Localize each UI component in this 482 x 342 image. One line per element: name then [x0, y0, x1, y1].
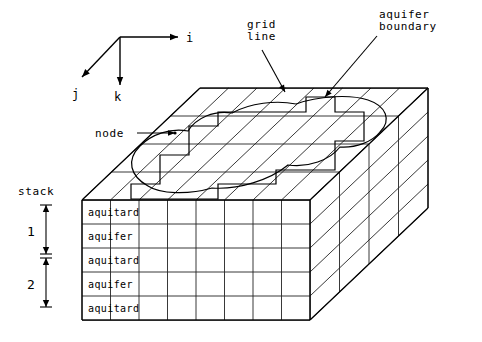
annotation-label-grid-line: gridline — [247, 18, 276, 43]
axis-label-i: i — [186, 31, 193, 45]
layer-label-aquitard-2: aquitard — [88, 255, 139, 266]
annotation-label-line: node — [95, 127, 124, 140]
layer-label-aquifer-1: aquifer — [88, 231, 133, 242]
stack-title-label: stack — [18, 185, 54, 198]
axis-label-j: j — [72, 87, 79, 101]
annotation-label-aquifer-boundary: aquiferboundary — [379, 8, 437, 33]
annotation-label-line: line — [247, 30, 276, 43]
aquifer-grid-diagram: aquitardaquiferaquitardaquiferaquitard s… — [0, 0, 482, 342]
annotation-label-line: boundary — [379, 20, 437, 33]
axis-label-k: k — [114, 90, 122, 104]
layer-label-aquitard-4: aquitard — [88, 303, 139, 314]
annotation-label-node: node — [95, 127, 124, 140]
node-marker — [173, 131, 176, 134]
layer-label-aquifer-3: aquifer — [88, 279, 133, 290]
layer-label-aquitard-0: aquitard — [88, 207, 139, 218]
stack-number-2: 2 — [27, 277, 35, 292]
node-marker-group — [173, 131, 176, 134]
stack-number-1: 1 — [27, 224, 35, 239]
